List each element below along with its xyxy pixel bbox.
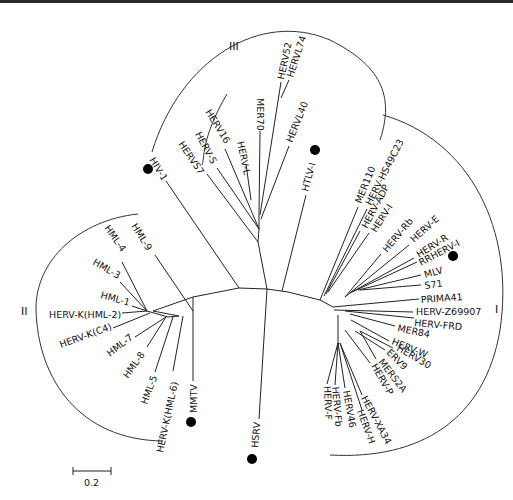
branch-hml-7 bbox=[135, 317, 166, 337]
branch-herv-e bbox=[345, 245, 409, 297]
hsrv-marker bbox=[247, 454, 257, 464]
label-herv-k-c4: HERV-K(C4) bbox=[58, 321, 113, 350]
branch-clade-iii-stem bbox=[258, 242, 267, 289]
label-herv-z69907: HERV-Z69907 bbox=[416, 306, 481, 317]
clade-iii-label: III bbox=[229, 40, 239, 53]
branch-hml-9 bbox=[155, 255, 193, 311]
branch-herv-p bbox=[345, 330, 370, 363]
label-mmtv: MMTV bbox=[188, 384, 199, 413]
branch-hiv-1 bbox=[166, 181, 239, 288]
htlv-i-marker bbox=[310, 145, 320, 155]
label-hml-7: HML-7 bbox=[104, 331, 134, 358]
label-hml-9: HML-9 bbox=[129, 221, 154, 252]
label-herv-k-hml-2: HERV-K(HML-2) bbox=[49, 309, 121, 320]
label-htlv-i: HTLV-I bbox=[299, 161, 317, 192]
label-s71: S71 bbox=[424, 278, 443, 291]
clade-i-label: I bbox=[495, 303, 498, 316]
label-hml-4: HML-4 bbox=[102, 223, 128, 254]
branch-herv-i bbox=[328, 233, 369, 292]
label-herv-k-hml-6: HERV-K(HML-6) bbox=[154, 381, 180, 454]
mmtv-marker bbox=[186, 417, 196, 427]
label-hml-5: HML-5 bbox=[139, 374, 160, 406]
phylogenetic-tree: III II I HERV52 HERVL74 MER70 HERVL40 HE… bbox=[0, 0, 513, 500]
label-hml-8: HML-8 bbox=[121, 349, 147, 380]
clade-ii-label: II bbox=[21, 305, 28, 318]
branch-herv-s bbox=[217, 168, 259, 229]
branch-mer70 bbox=[259, 131, 260, 213]
branch-htlv-i bbox=[282, 195, 306, 291]
branch-erv9 bbox=[355, 331, 385, 350]
clade-ii-backbone bbox=[147, 311, 179, 317]
branch-herv46 bbox=[338, 343, 345, 388]
label-herv-f: HERV-F bbox=[322, 386, 334, 420]
branch-prima41 bbox=[333, 299, 419, 307]
scale-bar: 0.2 bbox=[73, 467, 111, 488]
label-hsrv: HSRV bbox=[249, 421, 262, 448]
branch-clade-iii-stem2 bbox=[258, 229, 259, 242]
label-hml-1: HML-1 bbox=[99, 289, 131, 307]
branch-hervl74 bbox=[281, 80, 289, 98]
branch-hsrv bbox=[259, 289, 267, 419]
branch-hml-5 bbox=[155, 317, 173, 372]
label-hervl40: HERVL40 bbox=[284, 100, 310, 144]
scale-bar-label: 0.2 bbox=[84, 477, 99, 488]
branch-herv-k-hml-6 bbox=[173, 316, 183, 371]
label-mer70: MER70 bbox=[255, 98, 266, 131]
branch-hml-8 bbox=[147, 317, 166, 347]
label-prima41: PRIMA41 bbox=[420, 291, 463, 305]
branch-mer110 bbox=[320, 207, 358, 300]
branch-herv-k-hml-2 bbox=[122, 311, 147, 313]
label-hml-3: HML-3 bbox=[91, 256, 122, 281]
label-herv-l: HERV-L bbox=[235, 140, 253, 176]
branch-herv-xa34 bbox=[340, 343, 362, 395]
